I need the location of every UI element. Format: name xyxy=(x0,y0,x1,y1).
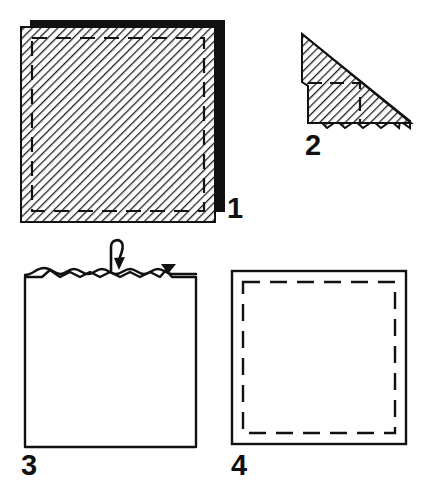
step-2-figure xyxy=(302,34,411,128)
step-2-hatched-wedge xyxy=(302,34,410,128)
step-4-figure xyxy=(232,271,406,444)
step-1-figure xyxy=(21,20,225,222)
step-1-number-label: 1 xyxy=(227,194,243,223)
step-3-figure xyxy=(25,240,196,447)
step-3-wavy-top-edge xyxy=(25,268,196,275)
step-3-hook-arrow xyxy=(111,240,123,272)
step-1-shadow xyxy=(30,20,225,212)
step-3-triangle-flag-marker xyxy=(161,264,176,274)
step-4-number-label: 4 xyxy=(231,451,247,480)
step-4-outer-square xyxy=(232,271,406,444)
step-3-arrow-head xyxy=(114,257,125,270)
step-2-number-label: 2 xyxy=(305,131,321,160)
step-2-dashed-fold-line xyxy=(308,83,360,123)
step-4-dashed-inner-square xyxy=(243,282,395,433)
step-3-square-body xyxy=(25,270,196,447)
diagram-sheet: 1 2 3 4 xyxy=(0,0,431,498)
diagram-canvas xyxy=(0,0,431,498)
step-2-wedge-outline xyxy=(302,34,411,123)
step-3-number-label: 3 xyxy=(21,451,37,480)
step-1-hatched-square xyxy=(21,27,215,222)
step-1-dashed-stitch-line xyxy=(32,38,204,211)
